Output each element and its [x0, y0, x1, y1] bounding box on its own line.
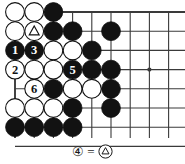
diagram-caption: ④ = [0, 139, 185, 164]
stone-white [6, 3, 25, 22]
star-point [147, 68, 151, 72]
stone-black [63, 99, 82, 118]
stone-black [6, 118, 25, 137]
caption-equals-sign: = [87, 145, 94, 158]
stone-white [6, 22, 25, 41]
stone-white [25, 99, 44, 118]
stone-black: 5 [63, 60, 82, 79]
stone-move-number: 5 [69, 63, 75, 77]
stone-black [63, 22, 82, 41]
star-points [147, 68, 151, 72]
stone-black [82, 60, 101, 79]
stone-white [44, 60, 63, 79]
caption-stone-marker [98, 144, 113, 159]
stone-black [102, 60, 121, 79]
stone-white [44, 99, 63, 118]
stone-black [63, 118, 82, 137]
stone-black [44, 22, 63, 41]
stone-white: 6 [25, 79, 44, 98]
stone-black [102, 99, 121, 118]
stone-white [82, 79, 101, 98]
stone-black [44, 79, 63, 98]
stone-move-number: 1 [12, 43, 18, 57]
stone-white [25, 60, 44, 79]
caption-move-marker: ④ [72, 145, 84, 158]
stone-black [25, 118, 44, 137]
stone-black [102, 79, 121, 98]
stone-white [6, 99, 25, 118]
stone-black [44, 118, 63, 137]
stone-black [102, 22, 121, 41]
stone-move-number: 6 [31, 82, 37, 96]
stone-white [63, 79, 82, 98]
stone-move-number: 2 [12, 63, 18, 77]
stone-white [44, 41, 63, 60]
stone-white [63, 41, 82, 60]
stones-layer: 13256 [6, 3, 121, 137]
stone-white [25, 3, 44, 22]
stone-black [82, 41, 101, 60]
stone-white: 2 [6, 60, 25, 79]
stone-black [44, 3, 63, 22]
stone-move-number: 3 [31, 43, 37, 57]
stone-black: 3 [25, 41, 44, 60]
stone-white [25, 22, 44, 41]
stone-black: 1 [6, 41, 25, 60]
